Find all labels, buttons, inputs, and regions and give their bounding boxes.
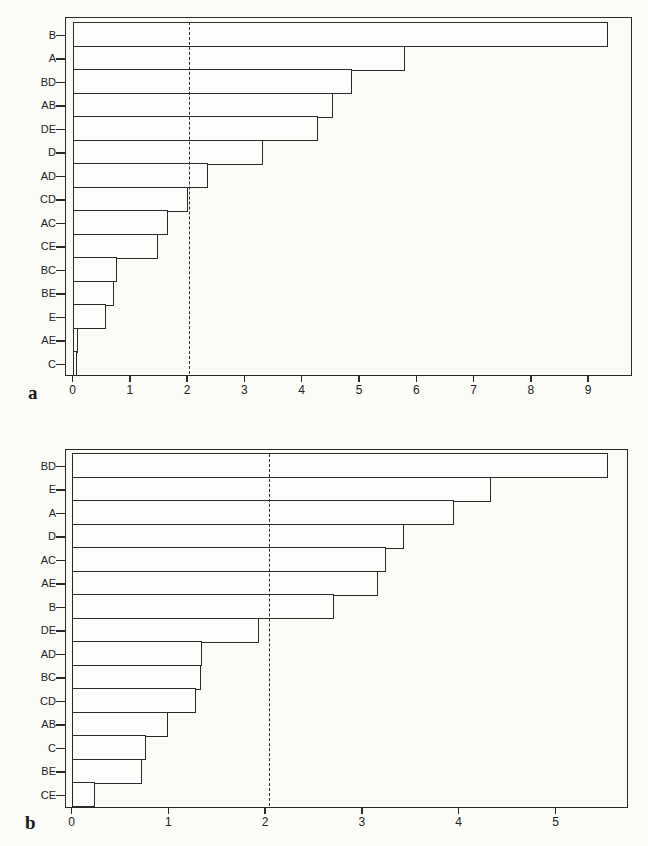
effect-bar — [72, 712, 169, 737]
significance-reference-line — [269, 454, 270, 806]
effect-bar — [72, 524, 404, 549]
x-tick-label: 4 — [449, 815, 469, 829]
y-tick-label: D — [16, 530, 56, 542]
x-tick — [555, 808, 557, 814]
y-tick-label: AD — [16, 648, 56, 660]
effect-bar — [72, 735, 147, 760]
x-tick-label: 0 — [62, 815, 82, 829]
effect-bar — [72, 641, 203, 666]
y-tick — [56, 748, 65, 750]
chart-panel-b: BDEADACAEBDEADBCCDABCBECE012345b — [0, 0, 648, 846]
y-tick — [56, 677, 65, 679]
y-tick-label: AC — [16, 554, 56, 566]
y-tick — [56, 795, 65, 797]
x-tick-label: 1 — [158, 815, 178, 829]
y-tick-label: E — [16, 483, 56, 495]
y-tick-label: B — [16, 601, 56, 613]
y-tick — [56, 771, 65, 773]
effect-bar — [72, 547, 387, 572]
y-tick — [56, 630, 65, 632]
x-tick — [71, 808, 73, 814]
effect-bar — [72, 500, 454, 525]
effect-bar — [72, 688, 197, 713]
effect-bar — [72, 618, 260, 643]
y-tick — [56, 607, 65, 609]
y-tick-label: AB — [16, 718, 56, 730]
y-tick — [56, 583, 65, 585]
y-tick-label: AE — [16, 577, 56, 589]
effect-bar — [72, 759, 143, 784]
y-tick-label: DE — [16, 624, 56, 636]
x-tick — [458, 808, 460, 814]
x-tick — [264, 808, 266, 814]
y-tick — [56, 513, 65, 515]
y-tick-label: A — [16, 507, 56, 519]
y-tick — [56, 654, 65, 656]
y-tick-label: BD — [16, 460, 56, 472]
effect-bar — [72, 453, 608, 478]
effect-bar — [72, 477, 491, 502]
y-tick-label: CE — [16, 789, 56, 801]
y-tick — [56, 489, 65, 491]
y-tick — [56, 466, 65, 468]
effect-bar — [72, 665, 202, 690]
y-tick-label: CD — [16, 695, 56, 707]
effect-bar — [72, 782, 95, 807]
y-tick-label: BE — [16, 765, 56, 777]
y-tick-label: C — [16, 742, 56, 754]
y-tick — [56, 724, 65, 726]
x-tick — [361, 808, 363, 814]
y-tick — [56, 701, 65, 703]
effect-bar — [72, 571, 379, 596]
x-tick-label: 3 — [352, 815, 372, 829]
y-tick — [56, 560, 65, 562]
x-tick-label: 2 — [255, 815, 275, 829]
y-tick — [56, 536, 65, 538]
x-tick-label: 5 — [546, 815, 566, 829]
y-tick-label: BC — [16, 671, 56, 683]
effect-bar — [72, 594, 334, 619]
x-tick — [168, 808, 170, 814]
panel-label: b — [25, 812, 36, 834]
